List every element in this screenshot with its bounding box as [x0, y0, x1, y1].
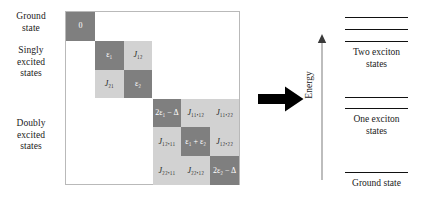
energy-level-line-one-exciton-1	[345, 97, 408, 98]
matrix-cell-label: J₂₁	[105, 80, 114, 88]
matrix-cell-label: J₁₂	[134, 51, 143, 59]
matrix-cell-r2-c1: J₂₁	[95, 70, 124, 99]
matrix-cell-r4-c5: J₁₂,₂₂	[210, 127, 239, 156]
energy-level-line-two-exciton-3	[345, 41, 408, 42]
matrix-cell-label: ε₁ + ε₂	[185, 137, 206, 145]
matrix-cell-label: J₁₂,₁₁	[159, 137, 176, 145]
matrix-cell-r5-c4: J₂₂,₁₂	[181, 156, 210, 185]
row-group-label-doubly-excited-states: Doublyexcitedstates	[0, 118, 62, 153]
figure-canvas: Groundstate Singlyexcitedstates Doublyex…	[0, 0, 430, 198]
matrix-cell-label: ε₂	[135, 80, 141, 88]
matrix-cell-r2-c2: ε₂	[124, 70, 153, 99]
matrix-cell-label: J₂₂,₁₂	[187, 166, 204, 174]
matrix-cell-r4-c4: ε₁ + ε₂	[181, 127, 210, 156]
matrix-row-group-labels: Groundstate Singlyexcitedstates Doublyex…	[0, 0, 64, 198]
matrix-cell-r4-c3: J₁₂,₁₁	[153, 127, 182, 156]
matrix-cell-label: J₁₁,₁₂	[187, 109, 204, 117]
energy-level-group-label-two-exciton: Two excitonstates	[333, 47, 420, 70]
matrix-cell-r5-c5: 2ε₂ − Δ	[210, 156, 239, 185]
transition-arrow-icon	[258, 85, 304, 113]
energy-level-line-two-exciton-2	[345, 29, 408, 30]
matrix-cell-label: 0	[78, 22, 82, 30]
matrix-cell-r3-c5: J₁₁,₂₂	[210, 99, 239, 128]
matrix-cell-label: J₁₂,₂₂	[216, 137, 233, 145]
energy-level-group-label-one-exciton: One excitonstates	[333, 114, 420, 137]
matrix-cell-r1-c2: J₁₂	[124, 41, 153, 70]
matrix-cell-label: J₂₂,₁₁	[159, 166, 176, 174]
matrix-cell-label: 2ε₁ − Δ	[155, 109, 178, 117]
hamiltonian-matrix: 0ε₁J₁₂J₂₁ε₂2ε₁ − ΔJ₁₁,₁₂J₁₁,₂₂J₁₂,₁₁ε₁ +…	[65, 11, 240, 185]
matrix-cell-r3-c4: J₁₁,₁₂	[181, 99, 210, 128]
energy-level-line-one-exciton-2	[345, 108, 408, 109]
energy-level-line-two-exciton-1	[345, 17, 408, 18]
matrix-cell-r3-c3: 2ε₁ − Δ	[153, 99, 182, 128]
energy-level-line-ground-state-1	[345, 172, 408, 173]
matrix-cell-r5-c3: J₂₂,₁₁	[153, 156, 182, 185]
energy-level-group-label-ground-state: Ground state	[333, 178, 420, 190]
energy-axis-label: Energy	[304, 71, 314, 98]
matrix-cell-r1-c1: ε₁	[95, 41, 124, 70]
matrix-cell-r0-c0: 0	[66, 12, 95, 41]
row-group-label-singly-excited-states: Singlyexcitedstates	[0, 45, 62, 80]
row-group-label-ground-state: Groundstate	[0, 11, 62, 34]
matrix-cell-label: 2ε₂ − Δ	[213, 166, 236, 174]
matrix-cell-label: ε₁	[106, 51, 112, 59]
energy-axis-arrow-icon	[316, 33, 328, 181]
matrix-cell-label: J₁₁,₂₂	[216, 109, 233, 117]
